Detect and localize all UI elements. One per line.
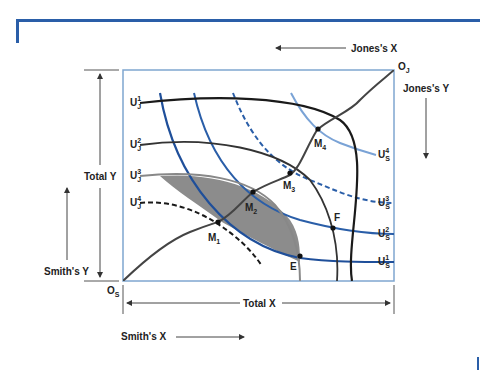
label-us2: U2S [378,226,390,241]
smiths-y-label: Smith's Y [44,266,89,277]
total-x-label: Total X [243,298,276,309]
edgeworth-box-diagram: M1 M2 M3 M4 E F U1J U2J U3J U4J U4S U3S … [0,0,480,370]
origin-smith: OS [107,285,120,298]
label-m3: M3 [283,180,295,193]
label-m4: M4 [314,138,326,151]
label-us4: U4S [378,147,390,162]
label-uj1: U1J [130,95,141,110]
smiths-x-label: Smith's X [121,331,166,342]
point-m2 [250,189,255,194]
point-m1 [215,219,220,224]
total-y-label: Total Y [84,171,117,182]
origin-jones: OJ [398,61,410,74]
jones-y-label: Jones's Y [403,83,449,94]
point-m3 [287,170,292,175]
label-us1: U1S [378,254,390,269]
label-uj4: U4J [130,195,141,210]
label-uj2: U2J [130,137,141,152]
point-e [297,253,302,258]
point-m4 [315,126,320,131]
label-uj3: U3J [130,168,141,183]
label-e: E [290,261,297,272]
label-f: F [334,212,340,223]
point-f [330,225,335,230]
jones-x-label: Jones's X [351,43,398,54]
mutual-gain-region [160,175,300,262]
smith-curve-u4 [291,93,376,155]
label-us3: U3S [378,195,390,210]
label-m1: M1 [208,232,220,245]
